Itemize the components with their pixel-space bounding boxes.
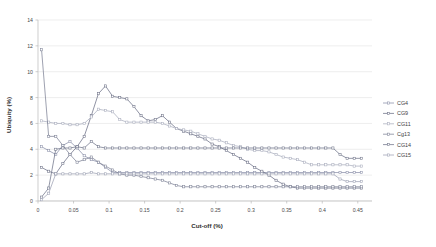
data-point-marker (104, 109, 106, 111)
data-point-marker (239, 157, 241, 159)
data-point-marker (69, 173, 71, 175)
data-point-marker (225, 186, 227, 188)
data-point-marker (90, 116, 92, 118)
data-point-marker (211, 143, 213, 145)
data-point-marker (90, 159, 92, 161)
legend-item-cg9[interactable]: CG9 (383, 110, 408, 116)
data-point-marker (183, 173, 185, 175)
data-point-marker (112, 95, 114, 97)
data-point-marker (97, 93, 99, 95)
data-point-marker (318, 173, 320, 175)
data-point-marker (140, 175, 142, 177)
data-point-marker (204, 135, 206, 137)
data-point-marker (40, 49, 42, 51)
legend-item-cg11[interactable]: CG11 (383, 121, 411, 127)
data-point-marker (282, 186, 284, 188)
data-point-marker (83, 147, 85, 149)
data-point-marker (140, 121, 142, 123)
legend-marker (387, 144, 389, 146)
data-point-marker (133, 121, 135, 123)
data-point-marker (40, 166, 42, 168)
data-point-marker (161, 173, 163, 175)
data-point-marker (318, 186, 320, 188)
series-line (42, 142, 362, 198)
data-point-marker (339, 178, 341, 180)
legend-item-cg13[interactable]: Cg13 (383, 131, 410, 137)
data-point-marker (346, 171, 348, 173)
chart-legend: CG4CG9CG11Cg13CG14CG15 (383, 100, 411, 158)
data-point-marker (119, 147, 121, 149)
data-point-marker (161, 122, 163, 124)
series-cg4 (40, 140, 362, 173)
x-tick-label: 0.35 (282, 207, 292, 213)
data-point-marker (332, 147, 334, 149)
legend-item-cg4[interactable]: CG4 (383, 100, 408, 106)
legend-marker (387, 123, 389, 125)
data-point-marker (190, 130, 192, 132)
series-cg13 (40, 49, 362, 188)
data-point-marker (211, 186, 213, 188)
data-point-marker (339, 164, 341, 166)
data-point-marker (360, 186, 362, 188)
data-point-marker (190, 147, 192, 149)
x-tick-labels: 00.050.10.150.20.250.30.350.40.45 (37, 201, 363, 213)
x-tick-label: 0.4 (319, 207, 326, 213)
data-point-marker (275, 179, 277, 181)
data-point-marker (275, 153, 277, 155)
data-point-marker (296, 159, 298, 161)
data-point-marker (254, 149, 256, 151)
y-tick-labels: 02468101214 (27, 17, 38, 204)
y-tick-label: 12 (27, 43, 33, 49)
data-point-marker (289, 173, 291, 175)
data-point-marker (168, 173, 170, 175)
data-point-marker (325, 147, 327, 149)
data-point-marker (90, 140, 92, 142)
data-point-marker (239, 173, 241, 175)
data-point-marker (48, 170, 50, 172)
data-point-marker (346, 157, 348, 159)
data-point-marker (303, 147, 305, 149)
data-point-marker (190, 186, 192, 188)
x-tick-label: 0.1 (105, 207, 112, 213)
data-point-marker (339, 186, 341, 188)
y-tick-label: 8 (30, 95, 33, 101)
data-point-marker (147, 177, 149, 179)
data-point-marker (175, 184, 177, 186)
data-point-marker (332, 186, 334, 188)
data-point-marker (83, 155, 85, 157)
data-point-marker (254, 173, 256, 175)
legend-label: Cg13 (397, 131, 410, 137)
data-point-marker (183, 129, 185, 131)
data-point-marker (76, 173, 78, 175)
data-point-marker (318, 147, 320, 149)
data-point-marker (332, 173, 334, 175)
data-point-marker (239, 147, 241, 149)
data-point-marker (282, 183, 284, 185)
data-point-marker (190, 173, 192, 175)
data-point-marker (190, 133, 192, 135)
data-point-marker (239, 186, 241, 188)
legend-item-cg15[interactable]: CG15 (383, 152, 411, 158)
data-point-marker (254, 147, 256, 149)
data-point-marker (353, 186, 355, 188)
data-point-marker (55, 173, 57, 175)
x-tick-label: 0.45 (353, 207, 363, 213)
data-point-marker (133, 147, 135, 149)
data-point-marker (275, 173, 277, 175)
legend-label: CG4 (397, 100, 408, 106)
data-point-marker (360, 165, 362, 167)
data-point-marker (232, 147, 234, 149)
data-point-marker (112, 147, 114, 149)
data-point-marker (161, 179, 163, 181)
data-point-marker (247, 186, 249, 188)
data-point-marker (140, 147, 142, 149)
data-point-marker (62, 162, 64, 164)
data-point-marker (204, 138, 206, 140)
legend-item-cg14[interactable]: CG14 (383, 142, 411, 148)
data-point-marker (325, 164, 327, 166)
data-point-marker (126, 173, 128, 175)
data-point-marker (218, 139, 220, 141)
data-point-marker (204, 147, 206, 149)
data-point-marker (62, 147, 64, 149)
x-tick-label: 0.3 (248, 207, 255, 213)
